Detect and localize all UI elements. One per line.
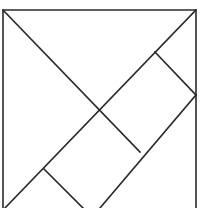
tangram-diagram [0,0,201,208]
anti-diagonal-line [5,10,196,208]
upper-right-cut-line [155,52,196,95]
lower-left-cut-line [44,169,83,208]
tangram-cut-lines [3,10,196,208]
right-lower-diagonal-line [100,95,196,208]
main-diagonal-line [3,10,140,152]
